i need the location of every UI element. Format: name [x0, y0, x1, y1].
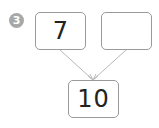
number-box-total: 10 [68, 80, 119, 118]
arrow-right [94, 50, 126, 79]
number-box-top-left: 7 [35, 12, 86, 50]
number-box-top-right-empty[interactable] [101, 12, 152, 50]
arrow-left [60, 50, 92, 79]
